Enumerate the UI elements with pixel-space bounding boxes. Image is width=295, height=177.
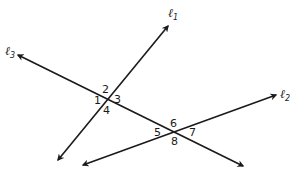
label-l2: ℓ2	[280, 87, 290, 103]
angle-diagram: ℓ1 ℓ2 ℓ3 1 2 3 4 5 6 7 8	[0, 0, 295, 177]
label-l3: ℓ3	[5, 44, 15, 60]
angle-7: 7	[189, 126, 196, 139]
angle-8: 8	[171, 135, 178, 148]
angle-2: 2	[102, 83, 109, 96]
angle-4: 4	[103, 104, 110, 117]
angle-1: 1	[94, 94, 101, 107]
label-l1: ℓ1	[168, 6, 178, 22]
angle-6: 6	[170, 117, 177, 130]
angle-5: 5	[154, 126, 161, 139]
line-l2	[83, 95, 276, 165]
angle-3: 3	[114, 93, 121, 106]
